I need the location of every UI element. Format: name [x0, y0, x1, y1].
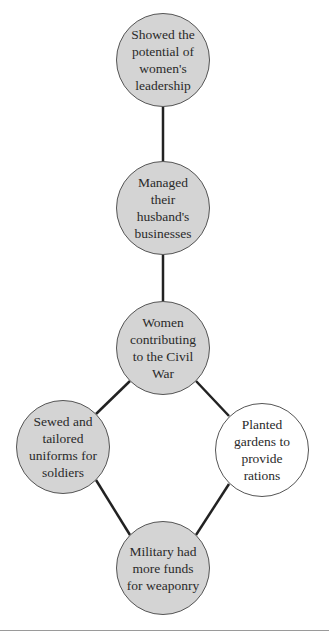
edge-civil-war-sewed — [96, 381, 130, 414]
bottom-divider — [0, 630, 329, 631]
node-label: Showed the potential of women's leadersh… — [117, 26, 209, 94]
edge-civil-war-planted — [196, 381, 229, 416]
node-label: Military had more funds for weaponry — [117, 543, 209, 594]
node-label: Managed their husband's businesses — [117, 174, 209, 242]
node-planted-gardens: Planted gardens to provide rations — [215, 403, 309, 497]
edge-planted-military — [196, 484, 229, 535]
edge-sewed-military — [96, 480, 130, 535]
concept-diagram: Showed the potential of women's leadersh… — [0, 0, 329, 634]
node-military-funds: Military had more funds for weaponry — [116, 521, 210, 615]
node-label: Planted gardens to provide rations — [216, 416, 308, 484]
node-women-civil-war: Women contributing to the Civil War — [116, 301, 210, 395]
node-womens-leadership: Showed the potential of women's leadersh… — [116, 13, 210, 107]
node-label: Women contributing to the Civil War — [117, 314, 209, 382]
node-label: Sewed and tailored uniforms for soldiers — [17, 413, 109, 481]
node-managed-businesses: Managed their husband's businesses — [116, 161, 210, 255]
node-sewed-uniforms: Sewed and tailored uniforms for soldiers — [16, 400, 110, 494]
